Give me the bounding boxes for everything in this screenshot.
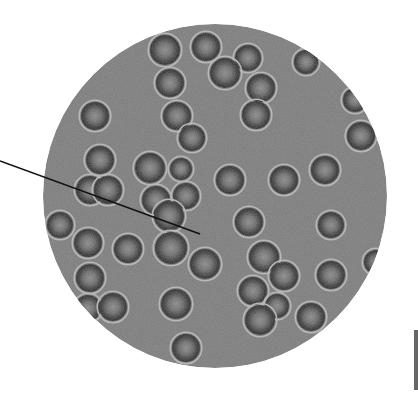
adjacent-field-edge xyxy=(414,330,418,390)
microscope-image xyxy=(0,0,418,408)
